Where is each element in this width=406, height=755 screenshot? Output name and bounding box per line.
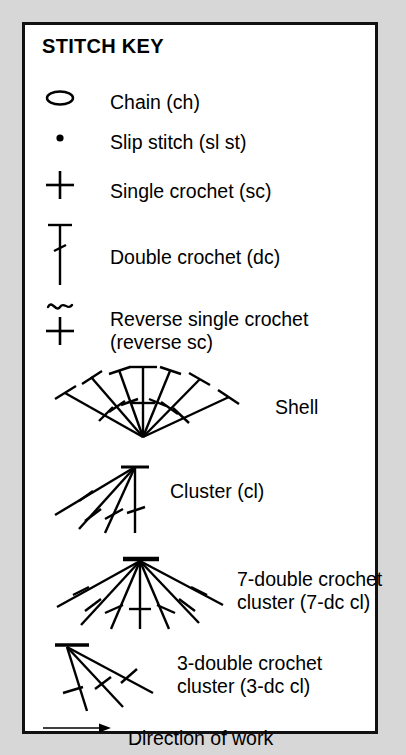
row-label-three-dc-cluster: 3-double crochet cluster (3-dc cl) — [177, 652, 322, 698]
row-label-cluster: Cluster (cl) — [170, 480, 264, 503]
double-crochet-symbol — [35, 221, 85, 291]
row-label-slip-stitch: Slip stitch (sl st) — [110, 131, 247, 154]
seven-dc-cluster-symbol — [43, 549, 233, 633]
single-crochet-plus-symbol — [35, 167, 85, 203]
row-label-single-crochet: Single crochet (sc) — [110, 180, 271, 203]
row-label-direction-of-work: Direction of work — [128, 727, 273, 750]
three-dc-cluster-symbol — [43, 635, 173, 715]
direction-arrow-symbol — [37, 713, 123, 743]
chain-oval-symbol — [37, 83, 83, 113]
slip-stitch-dot-symbol — [37, 125, 83, 151]
page-title: STITCH KEY — [42, 35, 164, 58]
row-label-reverse-single-crochet: Reverse single crochet (reverse sc) — [110, 308, 308, 354]
row-label-double-crochet: Double crochet (dc) — [110, 246, 280, 269]
row-label-chain: Chain (ch) — [110, 91, 200, 114]
shell-fan-symbol — [43, 365, 271, 443]
reverse-single-crochet-symbol — [35, 295, 85, 351]
row-label-shell: Shell — [275, 396, 318, 419]
stitch-key-panel: STITCH KEY — [22, 22, 378, 734]
row-label-seven-dc-cluster: 7-double crochet cluster (7-dc cl) — [237, 568, 382, 614]
cluster-symbol — [43, 457, 173, 539]
